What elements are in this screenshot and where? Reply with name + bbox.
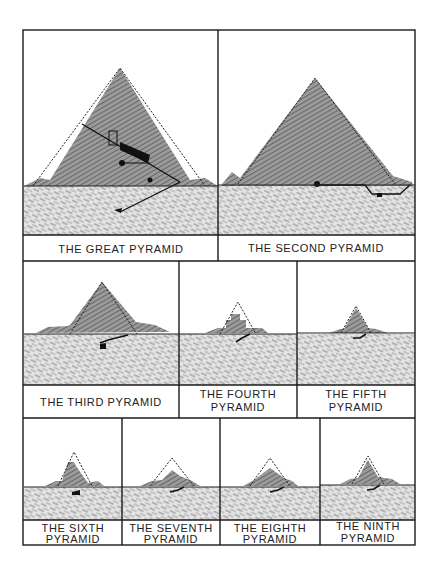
label-fifth-pyramid-line2: PYRAMID	[329, 401, 383, 413]
panel-second-pyramid: THE SECOND PYRAMID	[218, 78, 415, 254]
panel-great-pyramid: THE GREAT PYRAMID	[24, 68, 218, 255]
pyramids-diagram: THE GREAT PYRAMID THE SECOND PYRAMID THE…	[0, 0, 436, 574]
label-second-pyramid: THE SECOND PYRAMID	[248, 242, 384, 254]
panel-fourth-pyramid: THE FOURTH PYRAMID	[179, 302, 297, 413]
panel-seventh-pyramid: THE SEVENTH PYRAMID	[122, 458, 220, 545]
label-ninth-pyramid-line2: PYRAMID	[341, 532, 395, 544]
panel-fifth-pyramid: THE FIFTH PYRAMID	[297, 306, 415, 413]
label-third-pyramid: THE THIRD PYRAMID	[40, 396, 162, 408]
panel-third-pyramid: THE THIRD PYRAMID	[24, 282, 179, 408]
label-ninth-pyramid-line1: THE NINTH	[336, 520, 400, 532]
grid-frame	[23, 30, 415, 545]
pyramid-shape	[24, 68, 218, 186]
label-seventh-pyramid-line2: PYRAMID	[144, 533, 198, 545]
label-eighth-pyramid-line2: PYRAMID	[243, 533, 297, 545]
panel-ninth-pyramid: THE NINTH PYRAMID	[320, 456, 415, 544]
label-great-pyramid: THE GREAT PYRAMID	[58, 243, 183, 255]
panel-sixth-pyramid: THE SIXTH PYRAMID	[24, 452, 122, 545]
label-fifth-pyramid-line1: THE FIFTH	[325, 388, 387, 400]
panel-eighth-pyramid: THE EIGHTH PYRAMID	[220, 458, 320, 545]
label-sixth-pyramid-line2: PYRAMID	[46, 533, 100, 545]
label-fourth-pyramid-line2: PYRAMID	[211, 401, 265, 413]
label-fourth-pyramid-line1: THE FOURTH	[200, 388, 277, 400]
